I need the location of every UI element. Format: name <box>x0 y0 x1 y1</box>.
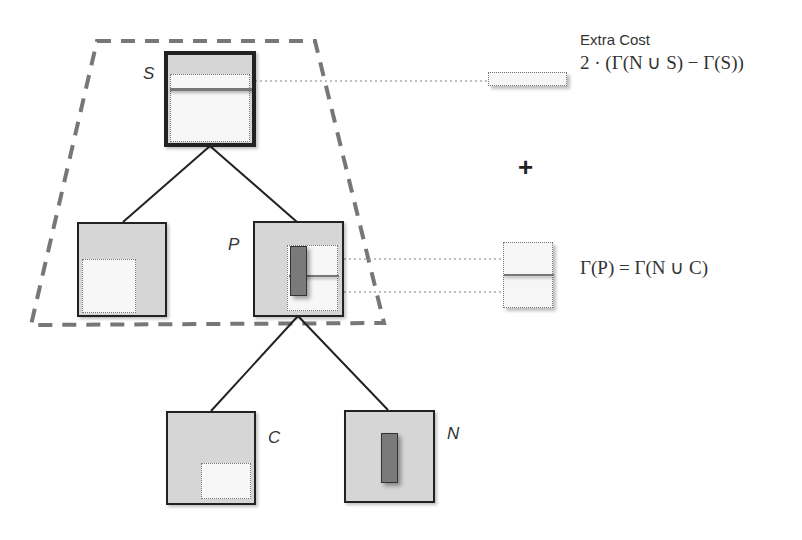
node-p-object <box>290 246 307 296</box>
node-c-label: C <box>268 428 280 448</box>
extra-cost-strip <box>488 72 567 86</box>
node-n-label: N <box>447 424 459 444</box>
node-c-region <box>201 463 251 499</box>
node-p <box>253 221 344 317</box>
node-s-label: S <box>143 64 154 84</box>
node-n-object <box>381 433 398 483</box>
node-s-split-line <box>170 88 252 91</box>
edge-s-p <box>210 146 297 222</box>
edge-s-left <box>123 146 210 222</box>
edge-p-c <box>211 316 298 411</box>
node-s <box>164 51 256 147</box>
extra-cost-formula: 2 · (Γ(N ∪ S) − Γ(S)) <box>580 51 744 74</box>
parent-cost-formula: Γ(P) = Γ(N ∪ C) <box>580 256 708 279</box>
parent-cost-split-line <box>504 274 554 276</box>
plus-operator: + <box>518 152 533 183</box>
node-s-region <box>170 74 250 142</box>
parent-cost-box <box>503 242 553 308</box>
node-left <box>77 222 167 317</box>
node-c <box>166 411 256 505</box>
node-left-region <box>82 259 136 313</box>
edge-p-n <box>298 316 388 410</box>
tree-diagram: S P C N Extra Cost 2 · (Γ(N ∪ S) − Γ(S))… <box>0 0 802 540</box>
extra-cost-heading: Extra Cost <box>580 31 650 48</box>
node-p-label: P <box>228 235 239 255</box>
node-n <box>344 410 435 503</box>
